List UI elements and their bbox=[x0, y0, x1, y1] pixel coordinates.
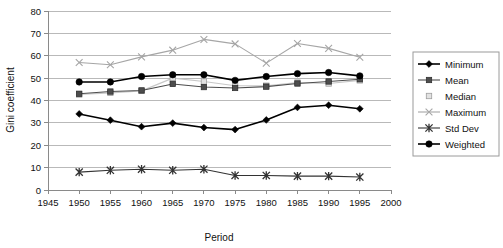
series-minimum bbox=[76, 102, 363, 133]
chart-legend: MinimumMeanMedianMaximumStd DevWeighted bbox=[413, 52, 499, 156]
y-tick-label-50: 50 bbox=[30, 73, 41, 84]
datapoint-minimum-1985-diamond bbox=[294, 104, 301, 111]
y-tick-label-0: 0 bbox=[36, 185, 41, 196]
x-tick-label-1985: 1985 bbox=[287, 197, 308, 208]
legend-label: Minimum bbox=[445, 59, 484, 70]
datapoint-weighted-1985 bbox=[294, 70, 300, 76]
tick-marks bbox=[44, 11, 391, 194]
data-series-layer bbox=[76, 36, 364, 181]
datapoint-weighted-1990 bbox=[325, 69, 331, 75]
datapoint-median-1970 bbox=[201, 79, 206, 84]
datapoint-weighted-1950 bbox=[76, 79, 82, 85]
datapoint-mean-1965-square bbox=[170, 81, 175, 86]
datapoint-mean-1970 bbox=[201, 84, 206, 89]
datapoint-mean-1950-square bbox=[76, 91, 81, 96]
series-line bbox=[79, 73, 360, 82]
x-tick-label-1945: 1945 bbox=[37, 197, 58, 208]
datapoint-minimum-1990-diamond bbox=[325, 102, 332, 109]
y-tick-label-40: 40 bbox=[30, 95, 41, 106]
datapoint-mean-1950 bbox=[76, 91, 81, 96]
chart-canvas: 01020304050607080 1945195019551960196519… bbox=[0, 0, 503, 248]
legend-label: Mean bbox=[445, 75, 469, 86]
datapoint-weighted-1950-circle bbox=[76, 79, 82, 85]
datapoint-minimum-1950-diamond bbox=[76, 111, 83, 118]
datapoint-weighted-1970 bbox=[201, 72, 207, 78]
datapoint-median-1970-square-light bbox=[201, 79, 206, 84]
datapoint-minimum-1970 bbox=[201, 124, 208, 131]
datapoint-maximum-1980 bbox=[263, 60, 270, 67]
datapoint-mean-1975-square bbox=[232, 85, 237, 90]
x-tick-label-1955: 1955 bbox=[100, 197, 121, 208]
datapoint-mean-1960-square bbox=[139, 88, 144, 93]
datapoint-minimum-1965 bbox=[169, 120, 176, 127]
datapoint-weighted-1990-circle bbox=[325, 69, 331, 75]
x-tick-label-1965: 1965 bbox=[162, 197, 183, 208]
datapoint-maximum-1995 bbox=[356, 54, 363, 61]
series-maximum bbox=[76, 36, 363, 68]
x-tick-label-1975: 1975 bbox=[225, 197, 246, 208]
datapoint-weighted-1980-circle bbox=[263, 73, 269, 79]
datapoint-mean-1990-square bbox=[326, 79, 331, 84]
datapoint-weighted-1995-circle bbox=[357, 73, 363, 79]
datapoint-maximum-1980-cross bbox=[263, 60, 270, 67]
datapoint-weighted-1975-circle bbox=[232, 77, 238, 83]
series-mean bbox=[76, 77, 362, 97]
datapoint-weighted-1985-circle bbox=[294, 70, 300, 76]
datapoint-mean-1985 bbox=[295, 81, 300, 86]
datapoint-mean-1985-square bbox=[295, 81, 300, 86]
datapoint-minimum-1970-diamond bbox=[201, 124, 208, 131]
x-tick-label-1980: 1980 bbox=[256, 197, 277, 208]
datapoint-weighted-1960-circle bbox=[138, 73, 144, 79]
datapoint-minimum-1965-diamond bbox=[169, 120, 176, 127]
y-axis-tick-labels: 01020304050607080 bbox=[30, 6, 41, 196]
datapoint-minimum-1980-diamond bbox=[263, 117, 270, 124]
x-tick-label-1950: 1950 bbox=[69, 197, 90, 208]
datapoint-minimum-1995 bbox=[356, 105, 363, 112]
gini-coefficient-line-chart: 01020304050607080 1945195019551960196519… bbox=[0, 0, 503, 248]
datapoint-weighted-1970-circle bbox=[201, 72, 207, 78]
datapoint-mean-1955 bbox=[108, 89, 113, 94]
datapoint-minimum-1950 bbox=[76, 111, 83, 118]
datapoint-minimum-1960-diamond bbox=[138, 123, 145, 130]
series-line bbox=[79, 169, 360, 177]
datapoint-mean-1960 bbox=[139, 88, 144, 93]
legend-label: Median bbox=[445, 91, 476, 102]
y-tick-label-80: 80 bbox=[30, 6, 41, 17]
legend-marker-weighted bbox=[426, 141, 432, 147]
datapoint-maximum-1995-cross bbox=[356, 54, 363, 61]
y-tick-label-60: 60 bbox=[30, 50, 41, 61]
datapoint-weighted-1980 bbox=[263, 73, 269, 79]
datapoint-weighted-1975 bbox=[232, 77, 238, 83]
datapoint-weighted-1965 bbox=[170, 72, 176, 78]
datapoint-mean-1980 bbox=[264, 84, 269, 89]
legend-marker-mean-square bbox=[426, 77, 431, 82]
y-tick-label-70: 70 bbox=[30, 28, 41, 39]
y-axis-title: Gini coefficient bbox=[5, 67, 16, 133]
x-tick-label-1970: 1970 bbox=[193, 197, 214, 208]
datapoint-minimum-1995-diamond bbox=[356, 105, 363, 112]
datapoint-minimum-1980 bbox=[263, 117, 270, 124]
y-tick-label-30: 30 bbox=[30, 117, 41, 128]
datapoint-minimum-1975 bbox=[232, 126, 239, 133]
datapoint-mean-1980-square bbox=[264, 84, 269, 89]
legend-label: Weighted bbox=[445, 139, 485, 150]
legend-marker-median bbox=[426, 93, 431, 98]
y-tick-label-10: 10 bbox=[30, 162, 41, 173]
datapoint-mean-1970-square bbox=[201, 84, 206, 89]
datapoint-weighted-1955 bbox=[107, 79, 113, 85]
gridlines bbox=[48, 11, 391, 168]
datapoint-minimum-1960 bbox=[138, 123, 145, 130]
datapoint-weighted-1965-circle bbox=[170, 72, 176, 78]
datapoint-mean-1965 bbox=[170, 81, 175, 86]
x-tick-label-2000: 2000 bbox=[380, 197, 401, 208]
x-axis-tick-labels: 1945195019551960196519701975198019851990… bbox=[37, 197, 401, 208]
datapoint-minimum-1985 bbox=[294, 104, 301, 111]
datapoint-mean-1975 bbox=[232, 85, 237, 90]
legend-marker-mean bbox=[426, 77, 431, 82]
x-axis-title: Period bbox=[205, 232, 234, 243]
datapoint-mean-1990 bbox=[326, 79, 331, 84]
x-tick-label-1990: 1990 bbox=[318, 197, 339, 208]
datapoint-minimum-1990 bbox=[325, 102, 332, 109]
series-line bbox=[79, 39, 360, 64]
datapoint-mean-1955-square bbox=[108, 89, 113, 94]
